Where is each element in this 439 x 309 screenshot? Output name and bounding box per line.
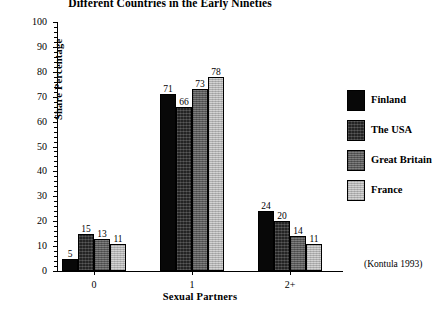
y-tick-minor [54, 256, 57, 257]
y-tick-minor [54, 151, 57, 152]
y-tick-minor [54, 112, 57, 113]
y-tick-major: 90 [53, 47, 58, 48]
y-tick-minor [54, 236, 57, 237]
y-tick-major: 20 [53, 221, 58, 222]
x-tick-label: 1 [190, 279, 195, 290]
bar-value-label: 14 [293, 226, 303, 236]
bar-value-label: 15 [81, 224, 91, 234]
bar: 20 [274, 221, 290, 271]
y-tick-major: 30 [53, 196, 58, 197]
bar-value-label: 71 [163, 84, 173, 94]
y-tick-label: 0 [42, 266, 47, 276]
y-tick-minor [54, 92, 57, 93]
y-tick-minor [54, 266, 57, 267]
y-tick-label: 100 [32, 17, 47, 27]
legend-swatch [347, 150, 365, 171]
bar-value-label: 73 [195, 79, 205, 89]
y-tick-minor [54, 181, 57, 182]
bar: 15 [78, 234, 94, 271]
bar: 66 [176, 107, 192, 271]
y-tick-label: 50 [37, 142, 47, 152]
y-tick-minor [54, 191, 57, 192]
y-tick-minor [54, 156, 57, 157]
y-tick-label: 60 [37, 117, 47, 127]
y-tick-minor [54, 102, 57, 103]
y-tick-major: 40 [53, 171, 58, 172]
y-tick-minor [54, 186, 57, 187]
y-tick-label: 20 [37, 216, 47, 226]
y-tick-label: 40 [37, 166, 47, 176]
y-tick-minor [54, 42, 57, 43]
y-tick-minor [54, 77, 57, 78]
y-tick-minor [54, 27, 57, 28]
y-tick-minor [54, 261, 57, 262]
y-tick-label: 80 [37, 67, 47, 77]
y-tick-major: 70 [53, 97, 58, 98]
bar: 11 [110, 244, 126, 271]
y-tick-minor [54, 137, 57, 138]
bar: 5 [62, 259, 78, 271]
y-tick-minor [54, 226, 57, 227]
legend-swatch [347, 180, 365, 201]
y-tick-major: 100 [53, 22, 58, 23]
source-annotation: (Kontula 1993) [364, 259, 422, 270]
y-tick-label: 90 [37, 42, 47, 52]
x-tick-mark [94, 271, 95, 275]
bar: 71 [160, 94, 176, 271]
bar-value-label: 5 [68, 249, 73, 259]
y-tick-minor [54, 206, 57, 207]
plot-area: Share Percentage 0102030405060708090100 … [57, 22, 342, 271]
y-tick-minor [54, 241, 57, 242]
y-tick-minor [54, 57, 57, 58]
x-tick-label: 2+ [285, 279, 296, 290]
legend-swatch [347, 120, 365, 141]
y-tick-minor [54, 176, 57, 177]
y-tick-minor [54, 161, 57, 162]
bar-value-label: 20 [277, 211, 287, 221]
x-axis-line [57, 271, 343, 272]
y-tick-minor [54, 107, 57, 108]
y-tick-label: 30 [37, 191, 47, 201]
y-tick-minor [54, 201, 57, 202]
legend-label: The USA [371, 124, 412, 136]
bar: 13 [94, 239, 110, 271]
chart-title: Different Countries in the Early Ninetie… [0, 0, 340, 9]
bar: 14 [290, 236, 306, 271]
bar-value-label: 11 [113, 234, 122, 244]
bar-chart-figure: Different Countries in the Early Ninetie… [0, 0, 439, 309]
y-tick-label: 70 [37, 92, 47, 102]
x-tick-mark [192, 271, 193, 275]
y-tick-minor [54, 87, 57, 88]
legend-label: Great Britain [371, 154, 432, 166]
y-tick-label: 10 [37, 241, 47, 251]
y-tick-minor [54, 166, 57, 167]
x-axis-title: Sexual Partners [57, 291, 343, 302]
y-tick-minor [54, 52, 57, 53]
y-tick-major: 10 [53, 246, 58, 247]
bar-value-label: 66 [179, 97, 189, 107]
bar: 11 [306, 244, 322, 271]
bar-value-label: 78 [211, 67, 221, 77]
y-tick-minor [54, 82, 57, 83]
bar-value-label: 11 [309, 234, 318, 244]
y-tick-major: 0 [53, 271, 58, 272]
y-tick-minor [54, 142, 57, 143]
y-tick-minor [54, 127, 57, 128]
y-tick-minor [54, 37, 57, 38]
y-tick-minor [54, 132, 57, 133]
y-tick-minor [54, 251, 57, 252]
bar-value-label: 24 [261, 201, 271, 211]
y-tick-minor [54, 211, 57, 212]
y-tick-minor [54, 32, 57, 33]
bar: 24 [258, 211, 274, 271]
bar: 73 [192, 89, 208, 271]
x-tick-mark [290, 271, 291, 275]
y-tick-minor [54, 62, 57, 63]
y-tick-major: 60 [53, 122, 58, 123]
y-tick-minor [54, 117, 57, 118]
y-tick-major: 80 [53, 72, 58, 73]
x-tick-label: 0 [92, 279, 97, 290]
y-tick-minor [54, 216, 57, 217]
y-tick-major: 50 [53, 147, 58, 148]
y-tick-minor [54, 231, 57, 232]
